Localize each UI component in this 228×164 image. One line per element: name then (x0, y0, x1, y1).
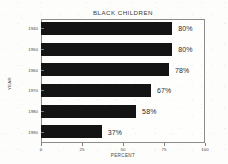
bar-value-label: 67% (157, 87, 172, 94)
y-tick-label-1940: 1940 (14, 26, 38, 31)
bar-1950 (41, 43, 172, 56)
bar-1940 (41, 22, 172, 35)
x-tick-mark (123, 143, 124, 146)
x-tick-label-25: 25 (72, 147, 92, 152)
x-tick-mark (41, 143, 42, 146)
bar-value-label: 58% (142, 108, 157, 115)
x-tick-label-75: 75 (154, 147, 174, 152)
bar-row: 80% (41, 22, 205, 35)
x-tick-mark (205, 143, 206, 146)
x-tick-mark (82, 143, 83, 146)
y-tick-mark (41, 132, 44, 133)
y-tick-label-1970: 1970 (14, 88, 38, 93)
y-tick-label-1990: 1990 (14, 129, 38, 134)
bar-row: 80% (41, 43, 205, 56)
x-tick-mark (164, 143, 165, 146)
y-tick-mark (41, 111, 44, 112)
y-tick-label-1960: 1960 (14, 67, 38, 72)
y-tick-mark (41, 90, 44, 91)
bar-row: 37% (41, 125, 205, 138)
bar-value-label: 78% (175, 66, 190, 73)
bar-chart-figure: BLACK CHILDREN YEAR 80%80%78%67%58%37% 1… (0, 0, 228, 164)
bar-row: 67% (41, 84, 205, 97)
bar-1980 (41, 105, 136, 118)
bar-value-label: 80% (178, 46, 193, 53)
bar-value-label: 80% (178, 25, 193, 32)
x-tick-label-0: 0 (31, 147, 51, 152)
bar-row: 58% (41, 105, 205, 118)
y-tick-label-1950: 1950 (14, 47, 38, 52)
y-axis-title: YEAR (7, 69, 12, 99)
x-axis-title: PERCENT (41, 153, 205, 158)
bar-value-label: 37% (108, 128, 123, 135)
y-tick-mark (41, 28, 44, 29)
bar-row: 78% (41, 63, 205, 76)
x-tick-label-100: 100 (195, 147, 215, 152)
bar-1960 (41, 63, 169, 76)
x-tick-label-50: 50 (113, 147, 133, 152)
chart-title: BLACK CHILDREN (41, 9, 205, 16)
y-tick-mark (41, 49, 44, 50)
bar-1990 (41, 125, 102, 138)
y-tick-mark (41, 70, 44, 71)
bar-1970 (41, 84, 151, 97)
y-tick-label-1980: 1980 (14, 109, 38, 114)
